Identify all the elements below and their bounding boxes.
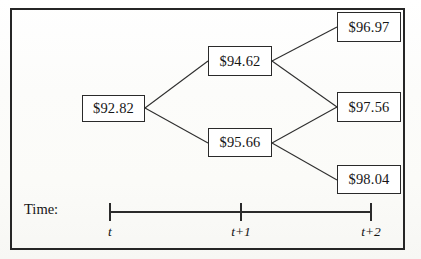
binomial-tree-figure: $92.82 $94.62 $95.66 $96.97 $97.56 $98.0…	[0, 0, 421, 259]
timeline-tick-label-t1: t+1	[231, 224, 251, 240]
timeline-axis	[0, 0, 421, 259]
timeline-tick-label-t: t	[108, 224, 112, 240]
timeline-tick-label-t2: t+2	[361, 224, 381, 240]
